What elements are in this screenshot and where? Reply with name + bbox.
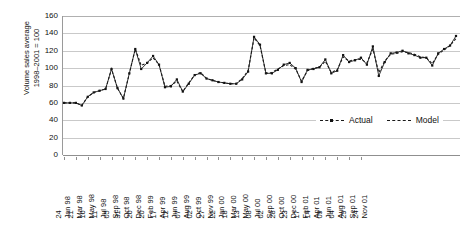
chart-legend: Actual Model xyxy=(316,112,443,128)
y-axis-tick-label: 100 xyxy=(32,64,58,72)
legend-entry-actual: Actual xyxy=(320,116,373,125)
data-point-marker xyxy=(407,52,409,54)
x-axis-tick-label: 24 Nov 01 xyxy=(352,157,369,219)
data-point-marker xyxy=(372,45,374,47)
series-line-actual xyxy=(64,36,456,106)
sales-volume-line-chart: Volume sales average 1998–2001 = 100 160… xyxy=(0,0,472,229)
legend-label-actual: Actual xyxy=(349,116,373,125)
data-point-marker xyxy=(241,78,243,80)
data-point-marker xyxy=(455,35,457,37)
y-axis-tick-label: 40 xyxy=(32,116,58,124)
y-axis-tick-label: 140 xyxy=(32,29,58,37)
data-point-marker xyxy=(289,62,291,64)
data-point-marker xyxy=(342,54,344,56)
data-point-marker xyxy=(324,58,326,60)
data-point-marker xyxy=(366,64,368,66)
data-point-marker xyxy=(378,75,380,77)
plot-area xyxy=(62,16,460,155)
data-point-marker xyxy=(176,78,178,80)
data-point-marker xyxy=(140,68,142,70)
y-axis-tick-label: 160 xyxy=(32,12,58,20)
data-point-marker xyxy=(253,36,255,38)
legend-key-model-icon xyxy=(387,116,411,125)
data-point-marker xyxy=(390,52,392,54)
y-axis-tick-label: 80 xyxy=(32,82,58,90)
data-point-marker xyxy=(188,83,190,85)
data-point-marker xyxy=(360,57,362,59)
data-point-marker xyxy=(330,72,332,74)
data-point-marker xyxy=(152,55,154,57)
series-line-model xyxy=(64,38,456,106)
y-axis-tick-label: 60 xyxy=(32,99,58,107)
y-axis-tick-label: 120 xyxy=(32,47,58,55)
y-axis-ticks: 160140120100806040200 xyxy=(30,16,58,155)
y-axis-tick-label: 0 xyxy=(32,151,58,159)
legend-label-model: Model xyxy=(416,116,439,125)
legend-key-actual-icon xyxy=(320,116,344,125)
legend-entry-model: Model xyxy=(387,116,439,125)
data-point-marker xyxy=(431,64,433,66)
y-axis-tick-label: 20 xyxy=(32,134,58,142)
x-axis-ticks: 24 Jan 9821 Mar 9816 May 9811 Jul 9805 S… xyxy=(62,157,460,227)
series-layer xyxy=(62,16,460,155)
x-axis-tick: 24 Nov 01 xyxy=(356,157,366,227)
